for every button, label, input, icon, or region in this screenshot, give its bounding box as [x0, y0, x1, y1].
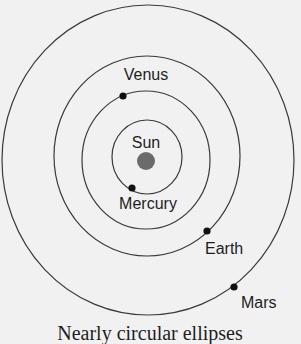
- mercury-label: Mercury: [119, 195, 177, 212]
- mars-dot-icon: [230, 283, 237, 290]
- sun-label: Sun: [132, 134, 160, 151]
- venus-label: Venus: [124, 66, 168, 83]
- mars-label: Mars: [241, 294, 277, 311]
- earth-dot-icon: [203, 227, 210, 234]
- caption: Nearly circular ellipses: [57, 322, 243, 344]
- venus-dot-icon: [119, 92, 126, 99]
- sun-icon: [137, 152, 155, 170]
- mercury-dot-icon: [128, 184, 135, 191]
- orbit-diagram: Sun Mercury Venus Earth Mars Nearly circ…: [0, 0, 301, 344]
- earth-label: Earth: [205, 240, 243, 257]
